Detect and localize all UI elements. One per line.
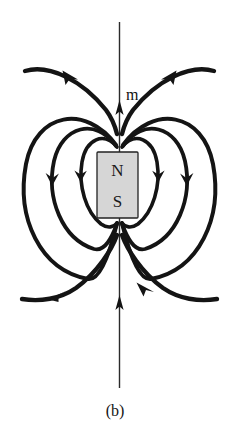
magnet-south-label: S [113, 192, 122, 211]
field-arc-top-left [25, 69, 117, 134]
magnet-north-label: N [111, 161, 123, 180]
field-arrow-bottom-right-icon [137, 283, 155, 297]
figure-container: m [0, 0, 230, 447]
figure-caption: (b) [106, 402, 125, 420]
bar-magnet: N S [97, 152, 138, 218]
magnetic-field-diagram: m [0, 0, 230, 447]
moment-label: m [126, 86, 139, 103]
